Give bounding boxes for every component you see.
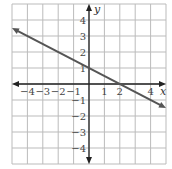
x-tick-label: 1 [101,86,107,97]
x-tick-label: 2 [117,86,123,97]
x-axis-label: x [160,85,167,98]
y-tick-label: 2 [80,47,86,58]
y-axis-label: y [93,3,101,16]
y-tick-label: −3 [71,127,86,138]
axes [12,4,166,164]
y-tick-label: 3 [80,31,86,42]
y-tick-label: −2 [71,111,86,122]
y-tick-label: −4 [71,143,86,154]
y-axis-arrow-up-icon [86,4,92,11]
x-tick-label: −4 [20,86,35,97]
x-tick-label: 4 [147,86,153,97]
x-tick-label: −2 [51,86,66,97]
x-axis-arrow-left-icon [12,81,19,87]
x-tick-label: −3 [35,86,50,97]
y-axis-arrow-down-icon [86,157,92,164]
coordinate-plane: −4−3−2−11244321−1−2−3−4 x y [0,0,172,169]
y-tick-label: 4 [80,15,86,26]
y-tick-label: −1 [71,95,86,106]
